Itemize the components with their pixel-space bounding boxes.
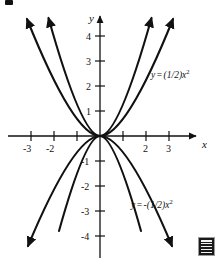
x-axis-name: x [202,139,207,150]
lined-page-icon [198,237,215,256]
x-tick-label-2: 2 [143,144,148,154]
lined-page-icon-line [201,246,212,248]
y-tick-label-neg4: -4 [81,232,89,242]
parabola-figure: -3 -2 2 3 1 2 3 4 -1 -2 -3 -4 x y y=(1/2… [0,0,222,264]
curve-label-upper-eq: = [155,70,163,80]
lined-page-icon-line [201,243,212,245]
curve-label-negative-half-x-squared: y=-(1/2)x2 [131,201,173,211]
lined-page-icon-line [201,240,212,242]
lined-page-icon-line [201,249,212,251]
curve-label-lower-eq: = [135,200,143,210]
curve-label-half-x-squared: y=(1/2)x2 [151,71,190,81]
lined-page-icon-line [201,252,212,254]
y-tick-label-neg1: -1 [81,157,89,167]
curve-label-lower-exponent: 2 [169,198,172,205]
y-tick-label-4: 4 [86,32,91,42]
x-tick-label-neg2: -2 [46,144,54,154]
y-tick-label-2: 2 [86,82,91,92]
y-tick-label-neg2: -2 [81,182,89,192]
x-tick-label-3: 3 [166,144,171,154]
curve-label-upper-rhs: (1/2)x [164,70,187,80]
y-tick-label-1: 1 [86,107,91,117]
curve-label-upper-exponent: 2 [186,68,189,75]
y-tick-label-3: 3 [86,57,91,67]
y-tick-label-neg3: -3 [81,207,89,217]
x-tick-label-neg3: -3 [23,144,31,154]
curve-label-lower-rhs: -(1/2)x [144,200,170,210]
coordinate-plane [0,0,222,264]
y-axis-name: y [89,13,94,24]
